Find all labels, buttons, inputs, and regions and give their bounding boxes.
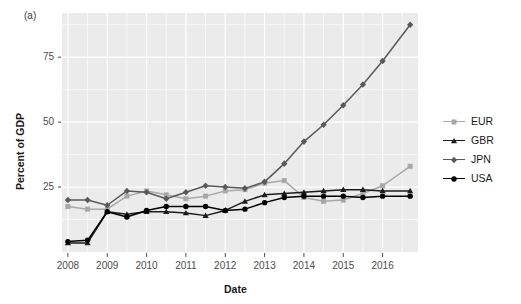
x-tick-label: 2008 [51, 260, 85, 271]
chart-legend: EURGBRJPNUSA [443, 112, 494, 188]
data-point [65, 204, 70, 209]
data-point [451, 137, 457, 142]
legend-key-triangle-icon [443, 134, 465, 148]
data-point [321, 199, 326, 204]
x-tick-label: 2015 [326, 260, 360, 271]
legend-item-eur: EUR [443, 112, 494, 131]
data-point [242, 206, 247, 211]
chart-figure: (a) Percent of GDP Date 255075 200820092… [0, 0, 521, 304]
data-point [282, 195, 287, 200]
legend-item-gbr: GBR [443, 131, 494, 150]
data-point [408, 164, 413, 169]
data-point [341, 193, 346, 198]
data-point [85, 207, 90, 212]
data-point [360, 195, 365, 200]
legend-key-diamond-icon [443, 153, 465, 167]
data-point [203, 194, 208, 199]
data-point [321, 193, 326, 198]
x-tick-label: 2009 [90, 260, 124, 271]
data-point [452, 119, 457, 124]
x-tick-label: 2013 [248, 260, 282, 271]
data-point [124, 214, 129, 219]
legend-label: EUR [471, 116, 493, 127]
legend-item-jpn: JPN [443, 150, 494, 169]
legend-item-usa: USA [443, 169, 494, 188]
x-tick-label: 2014 [287, 260, 321, 271]
data-point [451, 176, 456, 181]
x-tick-label: 2012 [208, 260, 242, 271]
y-tick-label: 25 [28, 181, 54, 192]
data-point [144, 208, 149, 213]
data-point [301, 193, 306, 198]
legend-label: JPN [471, 154, 491, 165]
data-point [223, 208, 228, 213]
x-axis-label: Date [224, 283, 247, 295]
data-point [183, 196, 188, 201]
legend-label: USA [471, 173, 493, 184]
legend-key-square-icon [443, 115, 465, 129]
data-point [85, 238, 90, 243]
y-axis-label: Percent of GDP [14, 113, 26, 190]
legend-key-circle-icon [443, 172, 465, 186]
data-point [380, 193, 385, 198]
data-point [164, 204, 169, 209]
data-point [183, 204, 188, 209]
data-point [203, 204, 208, 209]
data-point [282, 178, 287, 183]
legend-label: GBR [471, 135, 494, 146]
data-point [65, 239, 70, 244]
panel-background [62, 13, 418, 252]
x-tick-label: 2016 [366, 260, 400, 271]
data-point [380, 183, 385, 188]
data-point [407, 193, 412, 198]
x-tick-label: 2010 [130, 260, 164, 271]
y-tick-label: 75 [28, 51, 54, 62]
data-point [105, 209, 110, 214]
y-tick-label: 50 [28, 116, 54, 127]
data-point [451, 156, 457, 163]
panel-label: (a) [24, 10, 36, 21]
data-point [124, 194, 129, 199]
data-point [262, 200, 267, 205]
x-tick-label: 2011 [169, 260, 203, 271]
